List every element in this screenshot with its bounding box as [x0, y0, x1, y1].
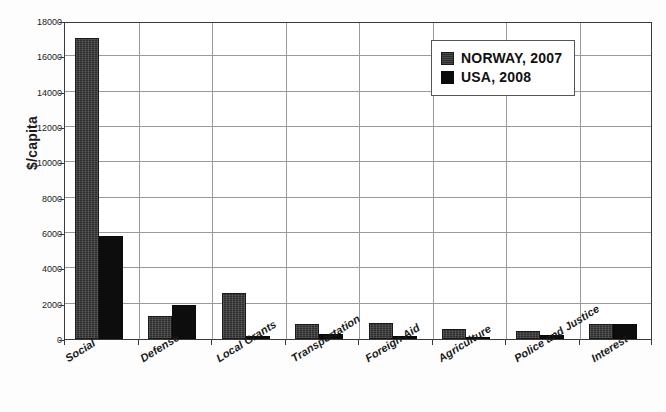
y-axis-tick-label: 14000	[4, 88, 62, 98]
legend-label: NORWAY, 2007	[461, 50, 562, 66]
y-axis-tick-label: 4000	[4, 264, 62, 274]
y-axis-tick-label: 8000	[4, 194, 62, 204]
y-axis-tick-label: 10000	[4, 158, 62, 168]
bar-group	[286, 23, 360, 339]
bar-group	[139, 23, 213, 339]
legend-swatch-norway	[441, 52, 454, 65]
y-axis-tick-label: 6000	[4, 229, 62, 239]
bar-group	[65, 23, 139, 339]
legend-item: NORWAY, 2007	[441, 50, 562, 66]
bar-norway	[75, 38, 99, 339]
legend-swatch-usa	[441, 71, 454, 84]
chart-legend: NORWAY, 2007USA, 2008	[431, 40, 575, 96]
chart-page: $/capita 0200040006000800010000120001400…	[0, 0, 666, 412]
y-axis-tick-labels: 0200040006000800010000120001400016000180…	[0, 22, 62, 340]
bar-group	[359, 23, 433, 339]
y-axis-tick-label: 18000	[4, 17, 62, 27]
y-axis-tick-label: 16000	[4, 52, 62, 62]
x-axis-category-label: Social	[63, 337, 97, 365]
legend-label: USA, 2008	[461, 69, 531, 85]
legend-item: USA, 2008	[441, 69, 562, 85]
bar-usa	[99, 236, 123, 339]
bar-norway	[589, 324, 613, 339]
y-axis-tick-label: 2000	[4, 300, 62, 310]
bar-group	[580, 23, 654, 339]
x-axis-category-labels: SocialDefenseLocal GrantsTransportationF…	[0, 340, 666, 412]
y-axis-tick-label: 12000	[4, 123, 62, 133]
bar-norway	[222, 293, 246, 339]
bar-group	[212, 23, 286, 339]
